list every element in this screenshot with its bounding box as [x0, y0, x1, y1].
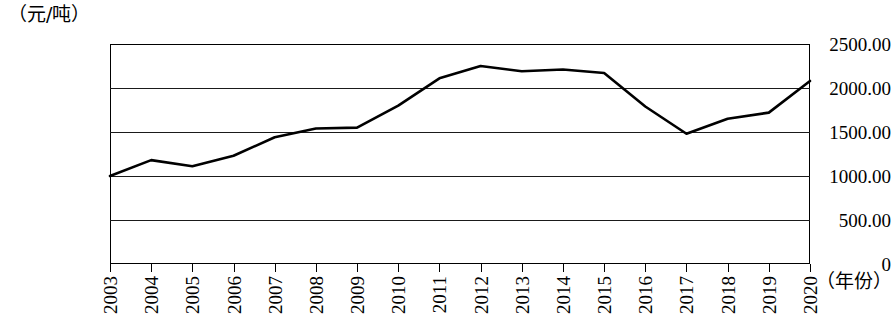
x-axis-tick — [398, 264, 399, 272]
x-axis-tick — [481, 264, 482, 272]
x-axis-tick-label-text: 2010 — [389, 276, 408, 314]
x-axis-tick — [234, 264, 235, 272]
x-axis-tick — [275, 264, 276, 272]
y-axis-tick-label: 2000.00 — [787, 79, 891, 98]
x-axis-tick — [686, 264, 687, 272]
series-line — [110, 44, 810, 264]
x-axis-tick-label-text: 2005 — [183, 276, 202, 314]
x-axis-tick — [439, 264, 440, 272]
x-axis-tick-label-text: 2014 — [554, 276, 573, 314]
x-axis-tick — [645, 264, 646, 272]
x-axis-tick-label-text: 2006 — [225, 276, 244, 314]
x-axis-tick-label-text: 2015 — [595, 276, 614, 314]
x-axis-tick-label-text: 2004 — [142, 276, 161, 314]
y-axis-unit-label: （元/吨） — [8, 2, 90, 26]
series-polyline — [110, 66, 810, 176]
x-axis-tick — [563, 264, 564, 272]
x-axis-tick — [604, 264, 605, 272]
plot-area — [110, 44, 810, 264]
x-axis-tick-label-text: 2012 — [472, 276, 491, 314]
x-axis-tick-label-text: 2011 — [430, 276, 449, 313]
x-axis-tick — [316, 264, 317, 272]
x-axis-tick — [110, 264, 111, 272]
x-axis-tick-label-text: 2018 — [719, 276, 738, 314]
x-axis-tick-label-text: 2009 — [348, 276, 367, 314]
y-axis-tick-label: 1000.00 — [787, 167, 891, 186]
x-axis-tick — [769, 264, 770, 272]
x-axis-tick-label-text: 2013 — [513, 276, 532, 314]
x-axis-tick-label-text: 2008 — [307, 276, 326, 314]
x-axis-tick-label-text: 2017 — [677, 276, 696, 314]
x-axis-tick — [810, 264, 811, 272]
x-axis-tick-label-text: 2003 — [101, 276, 120, 314]
y-axis-tick-label: 1500.00 — [787, 123, 891, 142]
x-axis-unit-label: （年份） — [816, 270, 891, 292]
y-axis-tick-label: 2500.00 — [787, 35, 891, 54]
x-axis-tick-label-text: 2007 — [266, 276, 285, 314]
x-axis-tick-label-text: 2019 — [760, 276, 779, 314]
x-axis-tick-label-text: 2016 — [636, 276, 655, 314]
x-axis-tick — [151, 264, 152, 272]
x-axis-tick — [728, 264, 729, 272]
x-axis-tick — [522, 264, 523, 272]
x-axis-tick — [192, 264, 193, 272]
x-axis-tick — [357, 264, 358, 272]
y-axis-tick-label: 500.00 — [787, 211, 891, 230]
